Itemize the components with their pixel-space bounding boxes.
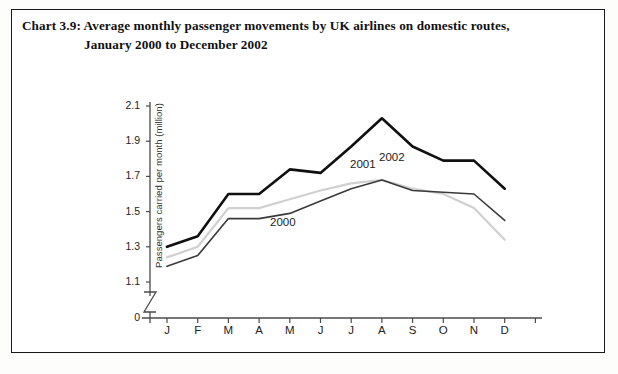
caption-line-2: January 2000 to December 2002	[84, 35, 582, 54]
chart-plot-area: Passengers carried per month (million) 0…	[100, 88, 550, 358]
series-line-2001	[167, 180, 505, 258]
chart-svg	[100, 88, 550, 358]
chart-caption: Chart 3.9: Average monthly passenger mov…	[22, 16, 582, 54]
caption-line-1: Chart 3.9: Average monthly passenger mov…	[22, 16, 582, 35]
series-line-2002	[167, 118, 505, 247]
scanned-page: Chart 3.9: Average monthly passenger mov…	[0, 0, 618, 374]
